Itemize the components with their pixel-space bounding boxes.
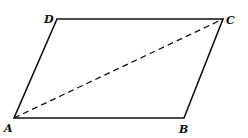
vertex-label-c: C bbox=[226, 14, 235, 27]
vertex-label-b: B bbox=[178, 123, 188, 136]
vertex-label-a: A bbox=[3, 122, 13, 135]
parallelogram-diagram: A B C D bbox=[0, 0, 248, 138]
vertex-label-d: D bbox=[43, 13, 54, 26]
diagonal-ac bbox=[14, 19, 223, 118]
